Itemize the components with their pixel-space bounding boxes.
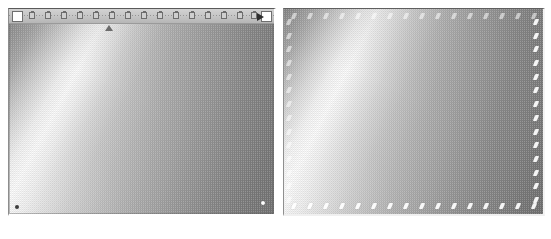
ruler-handle-1[interactable] bbox=[45, 12, 51, 19]
ruler-handle-11[interactable] bbox=[205, 12, 211, 19]
ruler-play-arrow-icon[interactable] bbox=[257, 13, 264, 21]
ruler-handle-8[interactable] bbox=[157, 12, 163, 19]
bottom-right-dot bbox=[261, 201, 265, 205]
gradient-panel-left[interactable] bbox=[8, 8, 276, 216]
ruler-handle-0[interactable] bbox=[29, 12, 35, 19]
ruler-handle-13[interactable] bbox=[237, 12, 243, 19]
ruler-handle-6[interactable] bbox=[125, 12, 131, 19]
ruler-handle-9[interactable] bbox=[173, 12, 179, 19]
ruler-handle-10[interactable] bbox=[189, 12, 195, 19]
ruler-handle-2[interactable] bbox=[61, 12, 67, 19]
gradient-canvas-left bbox=[9, 9, 274, 214]
ruler-handle-5[interactable] bbox=[109, 12, 115, 19]
ruler-start-square-marker[interactable] bbox=[12, 11, 23, 22]
gradient-panel-right[interactable] bbox=[283, 8, 545, 216]
gradient-corner-shading-right bbox=[284, 9, 543, 214]
ruler-handle-3[interactable] bbox=[77, 12, 83, 19]
gradient-corner-shading-left bbox=[9, 9, 274, 214]
page-title: Gradient Comparison Panels bbox=[0, 21, 1, 22]
screenshot-root: Gradient Comparison Panels bbox=[0, 0, 551, 239]
ruler-position-triangle-icon[interactable] bbox=[105, 25, 113, 31]
ruler-handle-4[interactable] bbox=[93, 12, 99, 19]
ruler-handle-7[interactable] bbox=[141, 12, 147, 19]
ruler-strip[interactable] bbox=[9, 9, 274, 24]
ruler-handle-12[interactable] bbox=[221, 12, 227, 19]
bottom-left-dot bbox=[15, 205, 19, 209]
gradient-canvas-right bbox=[284, 9, 543, 214]
